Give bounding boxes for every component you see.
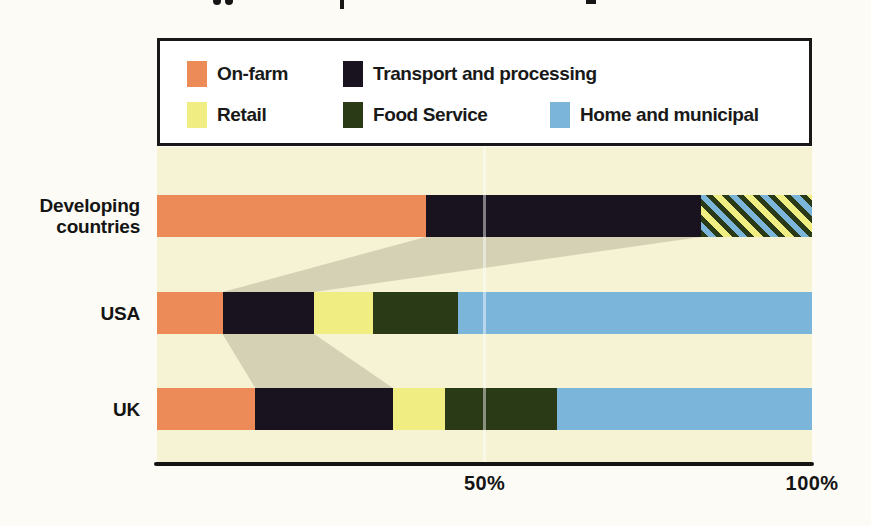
row-label: USA xyxy=(22,292,140,334)
legend-label: Food Service xyxy=(373,104,488,126)
bar-segment xyxy=(157,388,255,430)
cropped-text-artifact xyxy=(340,0,344,9)
bar-segment xyxy=(426,195,701,237)
legend-item: Retail xyxy=(187,102,266,128)
x-axis-tick-label: 100% xyxy=(786,472,839,495)
legend-item: Transport and processing xyxy=(343,61,597,87)
gridline-50 xyxy=(483,147,486,463)
bar-segment xyxy=(223,292,315,334)
legend-item: On-farm xyxy=(187,61,288,87)
bar-segment xyxy=(373,292,458,334)
legend-label: Home and municipal xyxy=(580,104,759,126)
legend-label: On-farm xyxy=(217,63,288,85)
bar-segment xyxy=(557,388,812,430)
x-axis-tick-label: 50% xyxy=(464,472,505,495)
legend-box: On-farmTransport and processingRetailFoo… xyxy=(157,38,812,146)
legend-swatch-icon xyxy=(187,61,207,87)
legend-swatch-icon xyxy=(343,61,363,87)
bar-segment xyxy=(157,195,426,237)
bar-segment xyxy=(701,195,812,237)
legend-swatch-icon xyxy=(550,102,570,128)
legend-label: Transport and processing xyxy=(373,63,597,85)
cropped-text-artifact xyxy=(586,0,596,4)
legend-item: Home and municipal xyxy=(550,102,759,128)
legend-label: Retail xyxy=(217,104,266,126)
bar-segment xyxy=(314,292,373,334)
legend-item: Food Service xyxy=(343,102,488,128)
cropped-text-artifact xyxy=(213,0,221,5)
bar-segment xyxy=(255,388,393,430)
stacked-bar-chart: On-farmTransport and processingRetailFoo… xyxy=(0,0,871,526)
bar-segment xyxy=(157,292,223,334)
legend-swatch-icon xyxy=(343,102,363,128)
bar-segment xyxy=(445,388,556,430)
x-axis-line xyxy=(154,462,814,466)
bar-segment xyxy=(393,388,445,430)
bar-segment xyxy=(458,292,812,334)
row-label: Developing countries xyxy=(22,195,140,237)
legend-swatch-icon xyxy=(187,102,207,128)
row-label: UK xyxy=(22,388,140,430)
cropped-text-artifact xyxy=(225,0,233,5)
